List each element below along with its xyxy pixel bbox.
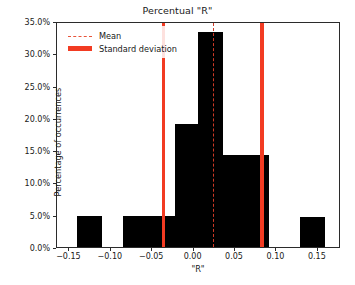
histogram-bar xyxy=(123,216,175,247)
legend-label-standard-deviation: Standard deviation xyxy=(99,44,177,54)
histogram-figure: Percentual "R" Mean Standard deviation −… xyxy=(0,0,355,285)
y-tick-label: 35.0% xyxy=(25,18,50,27)
legend-item-standard-deviation: Standard deviation xyxy=(67,42,177,55)
x-tick-mark xyxy=(68,248,69,251)
x-tick-label: 0.15 xyxy=(308,252,326,261)
x-tick-mark xyxy=(234,248,235,251)
histogram-bar xyxy=(300,217,325,247)
y-tick-label: 5.0% xyxy=(30,211,50,220)
x-tick-mark xyxy=(275,248,276,251)
x-tick-mark xyxy=(110,248,111,251)
y-tick-label: 25.0% xyxy=(25,82,50,91)
histogram-bar xyxy=(198,32,223,247)
histogram-bar xyxy=(77,216,102,247)
y-tick-label: 0.0% xyxy=(30,244,50,253)
y-tick-label: 15.0% xyxy=(25,147,50,156)
x-tick-label: −0.05 xyxy=(139,252,164,261)
y-tick-label: 10.0% xyxy=(25,179,50,188)
y-tick-label: 30.0% xyxy=(25,50,50,59)
standard-deviation-line xyxy=(260,23,263,247)
x-tick-label: 0.00 xyxy=(184,252,202,261)
y-tick-label: 20.0% xyxy=(25,114,50,123)
dashed-line-icon xyxy=(67,30,93,41)
x-tick-label: 0.10 xyxy=(267,252,285,261)
x-tick-mark xyxy=(317,248,318,251)
histogram-bar xyxy=(175,124,198,247)
chart-title: Percentual "R" xyxy=(0,5,355,16)
x-tick-label: 0.05 xyxy=(225,252,243,261)
legend-label-mean: Mean xyxy=(99,31,121,41)
chart-legend: Mean Standard deviation xyxy=(63,26,183,58)
legend-item-mean: Mean xyxy=(67,29,177,42)
mean-line xyxy=(213,23,214,247)
x-tick-label: −0.10 xyxy=(98,252,123,261)
x-tick-mark xyxy=(151,248,152,251)
y-tick-mark xyxy=(53,22,56,23)
x-tick-mark xyxy=(193,248,194,251)
x-axis-label: "R" xyxy=(56,264,340,274)
y-axis-label: Percentage of occurrences xyxy=(51,29,65,255)
solid-line-icon xyxy=(67,43,93,54)
